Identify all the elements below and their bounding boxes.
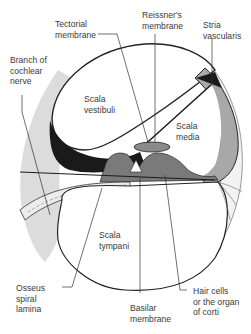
scala-tympani-region <box>57 182 227 290</box>
label-branch-cochlear-nerve: Branch of cochlear nerve <box>10 55 47 87</box>
label-hair-cells: Hair cells or the organ of corti <box>193 286 239 318</box>
label-osseus-spiral-lamina: Osseus spiral lamina <box>16 283 45 315</box>
label-reissners-membrane: Reissner's membrane <box>142 10 183 31</box>
label-basilar-membrane: Basilar membrane <box>130 303 171 324</box>
label-scala-tympani: Scala tympani <box>99 230 129 251</box>
label-scala-media: Scala media <box>176 121 199 142</box>
label-scala-vestibuli: Scala vestibuli <box>84 94 115 115</box>
label-tectorial-membrane: Tectorial membrane <box>55 19 96 40</box>
tectorial-membrane-shape <box>134 142 170 152</box>
label-stria-vascularis: Stria vascularis <box>203 20 241 41</box>
